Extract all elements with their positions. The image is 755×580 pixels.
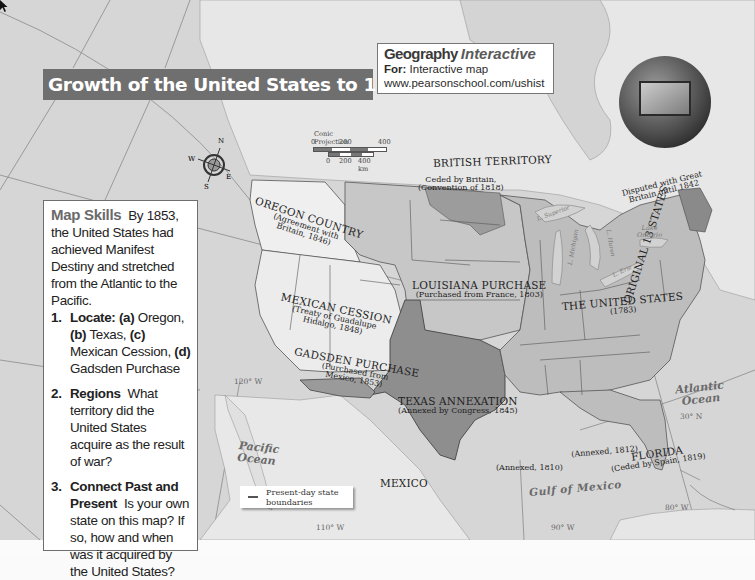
label-atlantic-ocean: AtlanticOcean — [675, 380, 726, 408]
label-louisiana-purchase: LOUISIANA PURCHASE(Purchased from France… — [412, 280, 546, 299]
label-ceded-by-britain: Ceded by Britain,(Convention of 1818) — [418, 176, 504, 193]
legend-label: Present-day state boundaries — [266, 487, 353, 507]
map-skills-intro: Map Skills By 1853, the United States ha… — [51, 206, 191, 309]
scale-mi-200: 200 — [339, 138, 352, 146]
part-d-text: Gadsden Purchase — [70, 361, 180, 376]
part-a-text: Oregon, — [134, 310, 184, 325]
boundary-line-swatch — [248, 496, 258, 498]
scale-km-400: 400 km — [358, 157, 371, 173]
compass-w: W — [188, 155, 195, 163]
map-skills-heading: Map Skills — [51, 206, 121, 223]
scale-km-200: 200 — [339, 157, 352, 165]
map-title: Growth of the United States to 1853 — [48, 70, 413, 99]
legend: Present-day state boundaries — [240, 486, 353, 508]
part-b-text: Texas, — [86, 327, 130, 342]
label-lake-ontario: LakeOntario — [637, 225, 662, 239]
locator-rectangle — [640, 82, 690, 115]
question-locate: 1. Locate: (a) Oregon, (b) Texas, (c) Me… — [51, 309, 191, 377]
part-c-text: Mexican Cession, — [70, 344, 174, 359]
brand-italic-text: Interactive — [461, 45, 536, 62]
question-number: 3. — [51, 478, 62, 495]
for-text: Interactive map — [410, 63, 489, 75]
scale-km-0: 0 — [326, 157, 330, 165]
label-90w: 90° W — [551, 524, 574, 532]
question-number: 2. — [51, 385, 62, 402]
cursor-arrow-icon — [0, 0, 8, 12]
label-30n: 30° N — [680, 413, 702, 421]
part-d: (d) — [174, 344, 190, 359]
question-number: 1. — [51, 309, 62, 326]
part-c: (c) — [130, 327, 145, 342]
geography-interactive-logo: GeographyInteractive — [384, 46, 547, 62]
question-connect: 3. Connect Past and Present Is your own … — [51, 478, 191, 580]
label-80w: 80° W — [665, 504, 688, 512]
question-label: Regions — [70, 386, 121, 401]
question-regions: 2. Regions What territory did the United… — [51, 385, 191, 470]
part-a: (a) — [119, 310, 134, 325]
compass-n: N — [218, 137, 224, 145]
brand-text: Geography — [384, 45, 458, 62]
map-skills-questions: 1. Locate: (a) Oregon, (b) Texas, (c) Me… — [51, 309, 191, 580]
label-texas-annexation: TEXAS ANNEXATION(Annexed by Congress, 18… — [398, 396, 518, 415]
question-label: Locate: — [70, 310, 116, 325]
compass-e: E — [226, 173, 231, 181]
compass-s: S — [204, 183, 209, 191]
label-120w: 120° W — [234, 378, 262, 386]
label-pacific-ocean: PacificOcean — [237, 440, 280, 467]
for-line: For: Interactive map — [384, 62, 547, 76]
label-annexed-1810: (Annexed, 1810) — [496, 457, 563, 474]
map-skills-intro-text: By 1853, the United States had achieved … — [51, 208, 179, 308]
for-label: For: — [384, 63, 406, 75]
scale-mi-0: 0 — [311, 138, 315, 146]
compass-icon — [196, 140, 236, 190]
label-mexico: MEXICO — [380, 474, 428, 491]
url-link[interactable]: www.pearsonschool.com/ushist — [384, 76, 547, 90]
geography-interactive-box[interactable]: GeographyInteractive For: Interactive ma… — [377, 43, 554, 94]
label-110w: 110° W — [316, 524, 344, 532]
part-b: (b) — [70, 327, 86, 342]
map-skills-panel: Map Skills By 1853, the United States ha… — [43, 200, 198, 551]
